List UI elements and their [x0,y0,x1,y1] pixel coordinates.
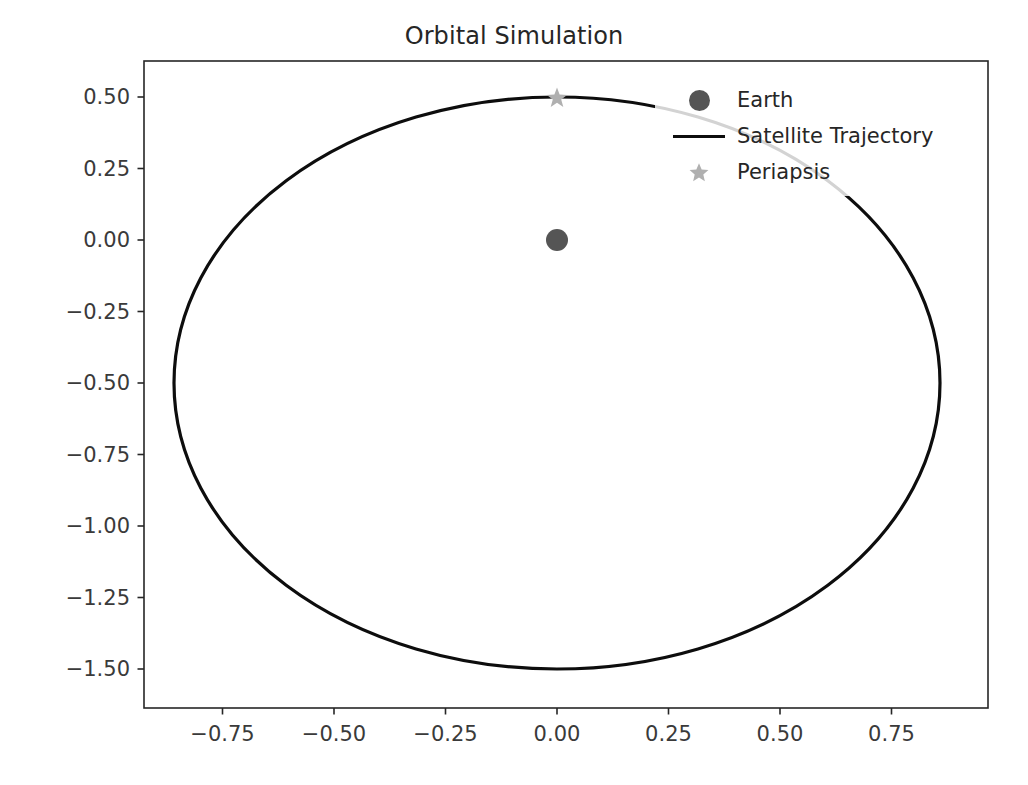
legend-label-earth: Earth [733,88,793,112]
ytick-label-4: −0.50 [20,371,130,395]
xtick-label-2: −0.25 [413,722,477,746]
star-marker-icon [688,161,710,183]
ytick-label-1: 0.25 [20,157,130,181]
ytick-label-2: 0.00 [20,228,130,252]
legend-item-satellite-trajectory: Satellite Trajectory [665,118,967,154]
ytick-label-7: −1.25 [20,586,130,610]
xtick-label-3: 0.00 [534,722,581,746]
ytick-label-0: 0.50 [20,85,130,109]
xtick-label-0: −0.75 [190,722,254,746]
legend-key-satellite-trajectory [665,135,733,138]
ytick-label-5: −0.75 [20,443,130,467]
line-icon [673,135,725,138]
legend-key-periapsis [665,161,733,183]
xtick-label-1: −0.50 [302,722,366,746]
earth-marker [546,229,568,251]
y-axis-ticks [138,97,145,669]
x-axis-ticks [223,708,892,715]
xtick-label-6: 0.75 [868,722,915,746]
xtick-label-4: 0.25 [645,722,692,746]
legend-item-periapsis: Periapsis [665,154,967,190]
ytick-label-3: −0.25 [20,300,130,324]
legend-item-earth: Earth [665,82,967,118]
legend-label-satellite-trajectory: Satellite Trajectory [733,124,933,148]
chart-legend: Earth Satellite Trajectory Periapsis [655,74,977,196]
ytick-label-8: −1.50 [20,657,130,681]
xtick-label-5: 0.50 [757,722,804,746]
chart-figure: Orbital Simulation [0,0,1028,785]
legend-key-earth [665,90,733,111]
ytick-label-6: −1.00 [20,514,130,538]
circle-marker-icon [689,90,710,111]
legend-label-periapsis: Periapsis [733,160,830,184]
